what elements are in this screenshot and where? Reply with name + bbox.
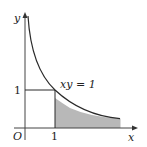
y-axis-label: y <box>13 12 21 25</box>
x-tick-1: 1 <box>51 130 58 143</box>
shaded-region <box>55 98 120 128</box>
y-axis-arrow-icon <box>23 12 28 18</box>
equation-label: xy = 1 <box>60 78 96 91</box>
hyperbola-diagram: y x O 1 1 xy = 1 <box>0 0 147 147</box>
y-tick-1: 1 <box>14 84 21 97</box>
origin-label: O <box>13 130 22 143</box>
x-axis-label: x <box>128 131 135 144</box>
x-axis-arrow-icon <box>132 126 138 131</box>
hyperbola-curve <box>28 16 120 119</box>
